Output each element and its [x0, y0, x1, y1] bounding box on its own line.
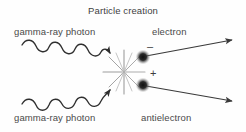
label-gamma-ray-photon-top: gamma-ray photon: [14, 26, 95, 37]
label-electron: electron: [152, 26, 187, 37]
electron-charge-sign: –: [147, 41, 153, 52]
label-antielectron: antielectron: [141, 112, 191, 123]
antielectron-track: [146, 86, 232, 101]
antielectron-particle-dot: [136, 78, 151, 93]
gamma-ray-photon-bottom-wave: [22, 90, 110, 110]
electron-track: [146, 40, 232, 56]
figure-title: Particle creation: [0, 5, 246, 16]
label-gamma-ray-photon-bottom: gamma-ray photon: [14, 112, 95, 123]
antielectron-charge-sign: +: [150, 68, 156, 79]
gamma-ray-photon-top-wave: [22, 40, 110, 56]
particle-creation-figure: Particle creation gamma-ray photon gamma…: [0, 0, 246, 132]
